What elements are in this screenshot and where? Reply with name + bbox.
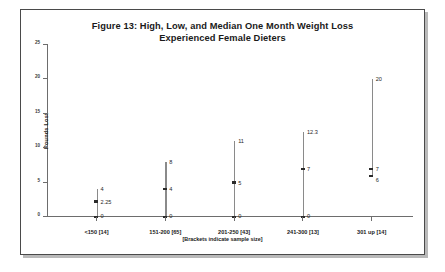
x-tick bbox=[234, 217, 235, 221]
y-tick-label: 0 bbox=[37, 212, 40, 217]
x-category-label: 241-300 [13] bbox=[287, 229, 319, 235]
median-marker bbox=[94, 200, 98, 202]
y-tick-label: 25 bbox=[35, 40, 40, 45]
range-line bbox=[372, 79, 373, 175]
low-value-label: 6 bbox=[376, 177, 379, 183]
plot-area: Pounds Lost 0510152025 42.250<150 [14]84… bbox=[47, 45, 413, 217]
y-tick-label: 15 bbox=[35, 109, 40, 114]
median-marker bbox=[163, 188, 167, 190]
y-tick-label: 20 bbox=[35, 74, 40, 79]
low-value-label: 0 bbox=[307, 213, 310, 219]
y-tick: 15 bbox=[43, 113, 48, 114]
y-tick: 10 bbox=[43, 147, 48, 148]
high-value-label: 8 bbox=[169, 159, 172, 165]
low-value-label: 0 bbox=[169, 213, 172, 219]
median-value-label: 4 bbox=[169, 186, 172, 192]
y-tick-label: 5 bbox=[37, 178, 40, 183]
y-tick-label: 10 bbox=[35, 143, 40, 148]
low-marker bbox=[369, 175, 373, 177]
median-marker bbox=[369, 168, 373, 170]
range-line bbox=[303, 132, 304, 217]
median-value-label: 7 bbox=[376, 166, 379, 172]
x-tick bbox=[165, 217, 166, 221]
low-value-label: 0 bbox=[101, 213, 104, 219]
y-tick: 20 bbox=[43, 78, 48, 79]
low-value-label: 0 bbox=[238, 213, 241, 219]
median-value-label: 5 bbox=[238, 180, 241, 186]
median-marker bbox=[301, 168, 305, 170]
median-marker bbox=[232, 181, 236, 183]
x-category-label: <150 [14] bbox=[84, 229, 108, 235]
high-value-label: 20 bbox=[376, 76, 382, 82]
x-category-label: 301 up [14] bbox=[357, 229, 386, 235]
y-tick: 25 bbox=[43, 44, 48, 45]
median-value-label: 7 bbox=[307, 166, 310, 172]
chart-title-line-2: Experienced Female Dieters bbox=[21, 33, 424, 45]
range-line bbox=[97, 189, 98, 217]
y-axis-title: Pounds Lost bbox=[43, 113, 49, 149]
high-value-label: 11 bbox=[238, 138, 244, 144]
y-tick: 0 bbox=[43, 216, 48, 217]
x-category-label: 151-200 [65] bbox=[149, 229, 181, 235]
chart-title-line-1: Figure 13: High, Low, and Median One Mon… bbox=[92, 21, 354, 31]
high-value-label: 4 bbox=[101, 186, 104, 192]
x-tick bbox=[302, 217, 303, 221]
high-value-label: 12.3 bbox=[307, 129, 318, 135]
x-tick bbox=[96, 217, 97, 221]
x-tick bbox=[371, 217, 372, 221]
x-category-label: 201-250 [43] bbox=[218, 229, 250, 235]
footnote: [Brackets indicate sample size] bbox=[21, 236, 424, 242]
y-tick: 5 bbox=[43, 182, 48, 183]
median-value-label: 2.25 bbox=[101, 199, 112, 205]
figure-frame: Figure 13: High, Low, and Median One Mon… bbox=[20, 9, 425, 255]
chart-title: Figure 13: High, Low, and Median One Mon… bbox=[21, 21, 424, 44]
range-line bbox=[234, 141, 235, 217]
